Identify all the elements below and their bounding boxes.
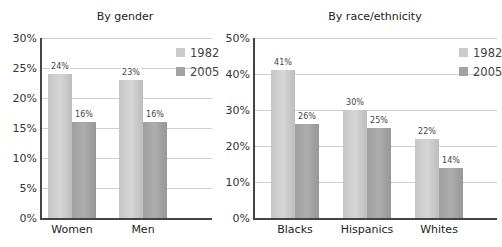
legend: 19822005 xyxy=(176,43,219,81)
x-category-label: Men xyxy=(131,223,154,236)
bar-blacks-2005 xyxy=(295,124,319,218)
bar-women-1982 xyxy=(48,74,72,218)
legend: 19822005 xyxy=(459,43,502,81)
bar-value-label: 23% xyxy=(121,68,141,77)
x-axis xyxy=(253,218,497,220)
bar-value-label: 41% xyxy=(273,58,293,67)
y-tick-label: 0% xyxy=(1,212,37,225)
legend-item: 1982 xyxy=(176,43,219,62)
bar-whites-2005 xyxy=(439,168,463,218)
bar-value-label: 16% xyxy=(74,110,94,119)
legend-label: 2005 xyxy=(473,65,502,79)
x-axis xyxy=(40,218,212,220)
y-tick-label: 20% xyxy=(1,92,37,105)
legend-swatch-icon xyxy=(459,48,468,57)
y-axis xyxy=(40,38,42,220)
y-tick-label: 5% xyxy=(1,182,37,195)
legend-label: 1982 xyxy=(473,46,502,60)
x-category-label: Whites xyxy=(420,223,458,236)
x-category-label: Women xyxy=(51,223,92,236)
bar-hispanics-1982 xyxy=(343,110,367,218)
legend-item: 2005 xyxy=(176,62,219,81)
bar-men-2005 xyxy=(143,122,167,218)
chart-by-race-ethnicity: By race/ethnicity 0%10%20%30%40%50%41%26… xyxy=(250,0,502,247)
bar-hispanics-2005 xyxy=(367,128,391,218)
bar-value-label: 14% xyxy=(441,156,461,165)
bar-blacks-1982 xyxy=(271,70,295,218)
y-tick-label: 40% xyxy=(214,68,250,81)
legend-swatch-icon xyxy=(459,67,468,76)
x-category-label: Blacks xyxy=(277,223,313,236)
legend-swatch-icon xyxy=(176,67,185,76)
y-tick-label: 50% xyxy=(214,32,250,45)
y-tick-label: 25% xyxy=(1,62,37,75)
gridline xyxy=(42,38,212,39)
bar-value-label: 30% xyxy=(345,98,365,107)
y-tick-label: 20% xyxy=(214,140,250,153)
y-tick-label: 10% xyxy=(214,176,250,189)
plot-area: 0%5%10%15%20%25%30%24%16%Women23%16%Men1… xyxy=(42,38,212,218)
chart-title: By race/ethnicity xyxy=(328,10,421,23)
x-category-label: Hispanics xyxy=(341,223,394,236)
bar-whites-1982 xyxy=(415,139,439,218)
legend-item: 1982 xyxy=(459,43,502,62)
bar-value-label: 24% xyxy=(50,62,70,71)
y-tick-label: 30% xyxy=(1,32,37,45)
bar-value-label: 25% xyxy=(369,116,389,125)
y-tick-label: 15% xyxy=(1,122,37,135)
y-tick-label: 30% xyxy=(214,104,250,117)
legend-item: 2005 xyxy=(459,62,502,81)
bar-women-2005 xyxy=(72,122,96,218)
legend-swatch-icon xyxy=(176,48,185,57)
bar-men-1982 xyxy=(119,80,143,218)
gridline xyxy=(255,38,497,39)
bar-value-label: 16% xyxy=(145,110,165,119)
bar-value-label: 26% xyxy=(297,112,317,121)
y-tick-label: 0% xyxy=(214,212,250,225)
legend-label: 1982 xyxy=(190,46,219,60)
y-axis xyxy=(253,38,255,220)
chart-title: By gender xyxy=(97,10,154,23)
bar-value-label: 22% xyxy=(417,127,437,136)
plot-area: 0%10%20%30%40%50%41%26%Blacks30%25%Hispa… xyxy=(255,38,497,218)
chart-by-gender: By gender 0%5%10%15%20%25%30%24%16%Women… xyxy=(0,0,250,247)
y-tick-label: 10% xyxy=(1,152,37,165)
